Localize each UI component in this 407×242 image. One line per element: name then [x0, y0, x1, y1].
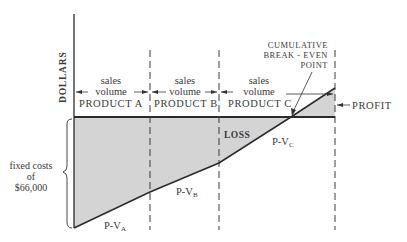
- product-b-label: PRODUCT B: [154, 98, 218, 109]
- fixed-costs-label: fixed costs of $66,000: [0, 160, 62, 193]
- break-even-diagram: [0, 0, 407, 242]
- sales-volume-c: sales volume: [236, 75, 282, 97]
- product-a-label: PRODUCT A: [79, 98, 143, 109]
- pv-a-label: P-VA: [104, 220, 126, 235]
- loss-label: LOSS: [224, 130, 250, 141]
- y-axis-label: DOLLARS: [58, 51, 68, 103]
- sales-volume-a: sales volume: [88, 75, 134, 97]
- product-c-label: PRODUCT C: [228, 98, 292, 109]
- pv-c-label: P-VC: [272, 136, 294, 151]
- loss-area: [74, 117, 291, 228]
- sales-volume-b: sales volume: [164, 75, 206, 97]
- profit-label: PROFIT: [352, 100, 392, 111]
- fixed-cost-brace: [63, 119, 72, 228]
- break-even-label: CUMULATIVE BREAK - EVEN POINT: [258, 40, 328, 70]
- pv-b-label: P-VB: [176, 186, 198, 201]
